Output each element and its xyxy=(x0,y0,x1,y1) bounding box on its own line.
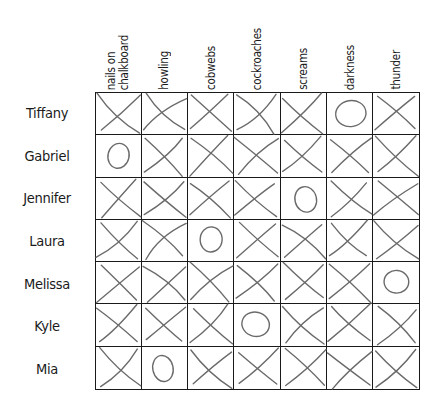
row-label: Laura xyxy=(0,220,94,263)
grid-cell[interactable] xyxy=(281,93,327,135)
grid-cell[interactable] xyxy=(373,220,419,262)
grid-cell[interactable] xyxy=(234,93,280,135)
row-label: Kyle xyxy=(0,305,94,348)
grid-cell[interactable] xyxy=(327,93,373,135)
grid-cell[interactable] xyxy=(142,304,188,346)
logic-grid xyxy=(95,92,420,390)
grid-cell[interactable] xyxy=(373,93,419,135)
row-label: Mia xyxy=(0,347,94,390)
grid-cell[interactable] xyxy=(281,135,327,177)
grid-cell[interactable] xyxy=(188,262,234,304)
grid-cell[interactable] xyxy=(96,262,142,304)
column-header: cockroaches xyxy=(234,0,280,90)
column-header: thunder xyxy=(374,0,420,90)
grid-cell[interactable] xyxy=(188,220,234,262)
grid-cell[interactable] xyxy=(234,135,280,177)
column-header-label: cockroaches xyxy=(251,24,264,90)
grid-cell[interactable] xyxy=(96,93,142,135)
row-label: Melissa xyxy=(0,262,94,305)
column-header: darkness xyxy=(327,0,373,90)
column-header-label: nails on chalkboard xyxy=(105,31,131,90)
row-label: Gabriel xyxy=(0,135,94,178)
column-header-label: darkness xyxy=(344,41,357,90)
grid-cell[interactable] xyxy=(327,262,373,304)
grid-cell[interactable] xyxy=(373,304,419,346)
grid-cell[interactable] xyxy=(281,262,327,304)
grid-cell[interactable] xyxy=(142,135,188,177)
column-header: screams xyxy=(281,0,327,90)
column-header-label: cobwebs xyxy=(205,42,218,90)
grid-cell[interactable] xyxy=(142,93,188,135)
grid-cell[interactable] xyxy=(188,304,234,346)
grid-cell[interactable] xyxy=(142,262,188,304)
grid-cell[interactable] xyxy=(281,304,327,346)
grid-cell[interactable] xyxy=(96,178,142,220)
column-header: howling xyxy=(141,0,187,90)
grid-cell[interactable] xyxy=(327,347,373,389)
grid-cell[interactable] xyxy=(96,135,142,177)
grid-cell[interactable] xyxy=(327,178,373,220)
grid-cell[interactable] xyxy=(234,347,280,389)
grid-cell[interactable] xyxy=(327,304,373,346)
grid-cell[interactable] xyxy=(281,347,327,389)
column-header-label: screams xyxy=(297,44,310,90)
grid-cell[interactable] xyxy=(327,220,373,262)
row-label: Tiffany xyxy=(0,92,94,135)
grid-cell[interactable] xyxy=(373,347,419,389)
grid-cell[interactable] xyxy=(142,347,188,389)
grid-cell[interactable] xyxy=(373,135,419,177)
column-header-label: thunder xyxy=(390,46,403,90)
grid-cell[interactable] xyxy=(234,262,280,304)
grid-cell[interactable] xyxy=(234,178,280,220)
grid-cell[interactable] xyxy=(373,262,419,304)
column-header: cobwebs xyxy=(188,0,234,90)
grid-cell[interactable] xyxy=(234,220,280,262)
grid-cell[interactable] xyxy=(327,135,373,177)
cross-mark-icon xyxy=(369,343,423,393)
grid-cell[interactable] xyxy=(96,304,142,346)
grid-cell[interactable] xyxy=(234,304,280,346)
grid-cell[interactable] xyxy=(96,347,142,389)
grid-cell[interactable] xyxy=(188,347,234,389)
grid-cell[interactable] xyxy=(188,178,234,220)
grid-cell[interactable] xyxy=(142,220,188,262)
grid-cell[interactable] xyxy=(373,178,419,220)
grid-cell[interactable] xyxy=(281,220,327,262)
grid-cell[interactable] xyxy=(188,93,234,135)
column-header-label: howling xyxy=(158,47,171,90)
column-header: nails on chalkboard xyxy=(95,0,141,90)
grid-cell[interactable] xyxy=(188,135,234,177)
grid-cell[interactable] xyxy=(281,178,327,220)
grid-cell[interactable] xyxy=(142,178,188,220)
row-label: Jennifer xyxy=(0,177,94,220)
grid-cell[interactable] xyxy=(96,220,142,262)
